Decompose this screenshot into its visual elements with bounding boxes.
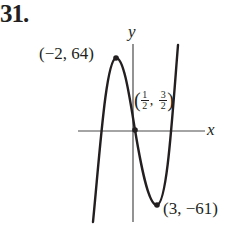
close-paren: ) <box>167 89 174 112</box>
comma: , <box>150 93 154 109</box>
denominator: 2 <box>142 101 147 111</box>
y-axis-label: y <box>128 22 136 42</box>
min-point-label: (3, −61) <box>163 199 218 219</box>
x-axis-label: x <box>207 120 215 140</box>
fraction-three-halves: 3 2 <box>159 90 167 111</box>
numerator: 3 <box>161 90 166 100</box>
min-point-marker <box>154 202 160 208</box>
fraction-one-half: 1 2 <box>141 90 149 111</box>
inflection-point-label: ( 1 2 , 3 2 ) <box>134 89 174 112</box>
numerator: 1 <box>142 90 147 100</box>
cubic-curve <box>93 45 178 222</box>
max-point-marker <box>113 55 119 61</box>
open-paren: ( <box>134 89 141 112</box>
max-point-label: (−2, 64) <box>39 44 94 64</box>
denominator: 2 <box>161 101 166 111</box>
inflection-point-marker <box>132 127 138 133</box>
